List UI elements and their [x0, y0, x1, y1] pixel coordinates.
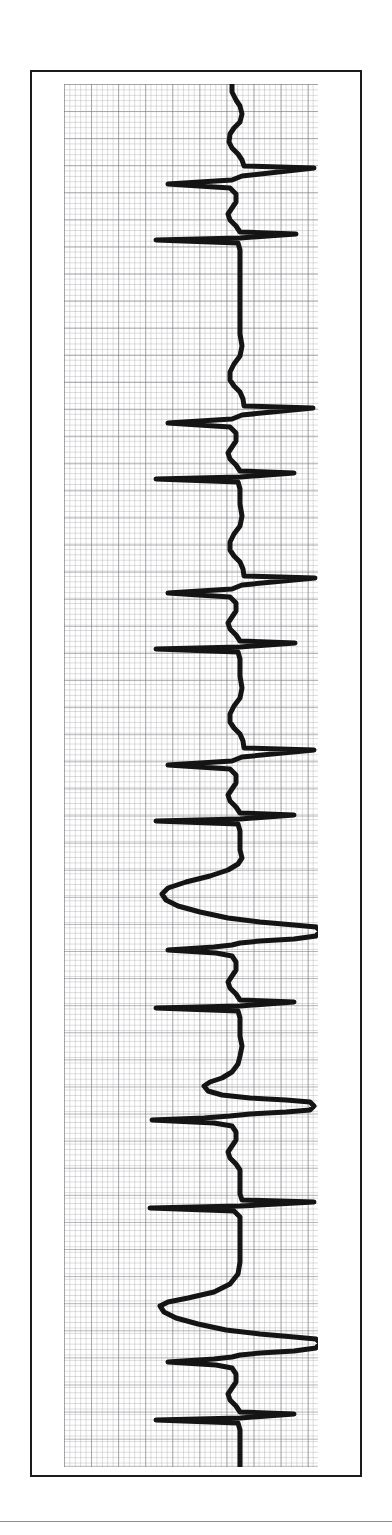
- ecg-graph-paper: [64, 84, 318, 1467]
- ecg-waveform-trace: [64, 84, 318, 1467]
- ecg-page: [0, 0, 392, 1535]
- page-bottom-rule: [0, 1521, 392, 1522]
- ecg-trace-path: [150, 84, 318, 1467]
- ecg-strip-frame: [30, 70, 362, 1477]
